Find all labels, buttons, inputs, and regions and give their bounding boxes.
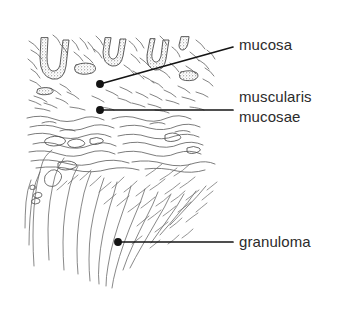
leader-dot-muscularis-mucosae <box>97 107 103 113</box>
histology-figure: mucosa muscularis mucosae granuloma <box>0 0 342 324</box>
label-mucosa: mucosa <box>239 37 292 53</box>
leader-dot-granuloma <box>115 239 121 245</box>
label-mucosae: mucosae <box>239 109 301 125</box>
label-muscularis: muscularis <box>239 89 312 105</box>
leader-dot-mucosa <box>97 81 103 87</box>
label-granuloma: granuloma <box>239 234 311 250</box>
